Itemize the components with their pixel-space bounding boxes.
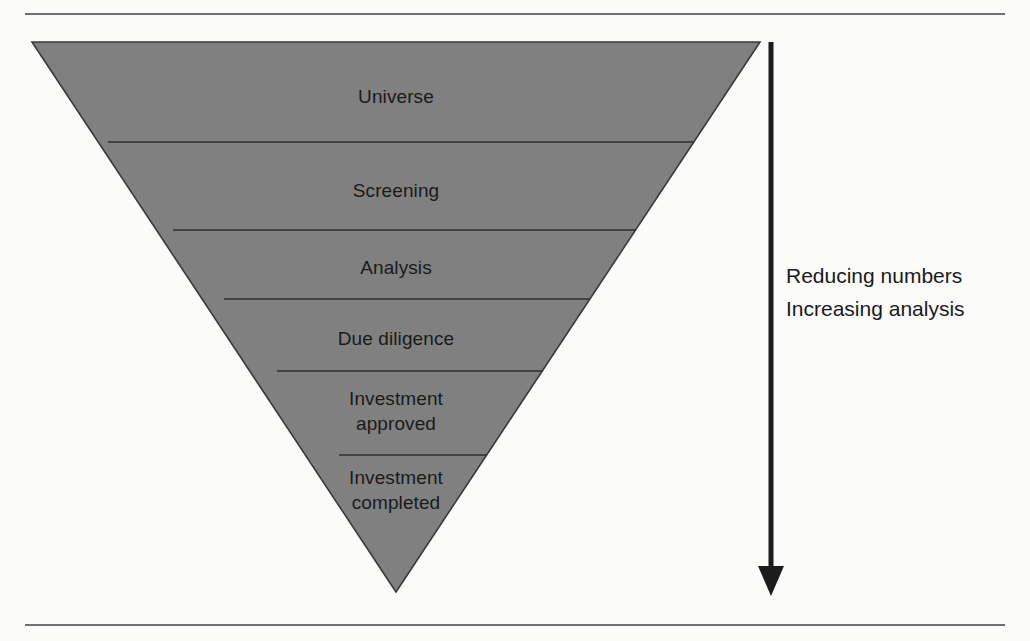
diagram-canvas: Universe Screening Analysis Due diligenc… <box>0 0 1030 641</box>
direction-arrow-head <box>758 566 784 596</box>
annotation-increasing-analysis: Increasing analysis <box>786 292 965 325</box>
funnel-body <box>32 42 760 592</box>
annotation-reducing-numbers: Reducing numbers <box>786 259 962 292</box>
